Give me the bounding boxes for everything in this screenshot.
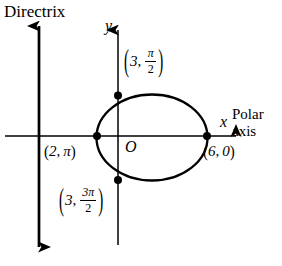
directrix-label: Directrix	[4, 3, 65, 20]
open-paren-bottom: (	[59, 185, 64, 216]
angle-right: 0	[222, 144, 230, 159]
y-axis-label: y	[105, 18, 112, 34]
angle-denominator-top: 2	[146, 63, 156, 76]
radius-bottom: 3	[65, 193, 73, 208]
comma-top: ,	[138, 54, 142, 69]
point-label-right: ( 6 , 0 )	[203, 144, 235, 159]
open-paren-left: (	[44, 143, 49, 160]
point-marker-bottom	[114, 176, 122, 184]
angle-fraction-bottom: 3π 2	[80, 186, 96, 214]
angle-numerator-bottom: 3π	[80, 186, 96, 199]
radius-right: 6	[208, 144, 216, 159]
angle-fraction-top: π 2	[145, 47, 156, 75]
polar-axis-label-line1: Polar	[232, 106, 264, 123]
polar-axis-label: Polar axis	[232, 106, 264, 140]
close-paren-bottom: )	[98, 185, 103, 216]
x-axis-label: x	[220, 114, 227, 130]
close-paren-left: )	[71, 143, 76, 160]
point-label-bottom: ( 3 , 3π 2 )	[58, 186, 104, 214]
angle-denominator-bottom: 2	[83, 202, 93, 215]
angle-left: π	[63, 144, 71, 159]
polar-graph-figure: Directrix y x Polar axis O ( 3 , π 2 ) (…	[0, 0, 282, 266]
close-paren-right: )	[230, 143, 235, 160]
comma-right: ,	[216, 144, 220, 159]
point-label-left: ( 2 , π )	[44, 144, 76, 159]
point-marker-left	[93, 132, 101, 140]
comma-left: ,	[57, 144, 61, 159]
point-marker-right	[203, 132, 211, 140]
point-label-top: ( 3 , π 2 )	[123, 47, 164, 75]
open-paren-top: (	[124, 46, 129, 77]
radius-top: 3	[130, 54, 138, 69]
close-paren-top: )	[158, 46, 163, 77]
comma-bottom: ,	[73, 193, 77, 208]
angle-numerator-top: π	[146, 47, 156, 60]
point-marker-top	[114, 92, 122, 100]
radius-left: 2	[49, 144, 57, 159]
circle-curve	[97, 95, 208, 181]
open-paren-right: (	[203, 143, 208, 160]
origin-label: O	[125, 139, 137, 155]
polar-axis-label-line2: axis	[232, 123, 264, 140]
